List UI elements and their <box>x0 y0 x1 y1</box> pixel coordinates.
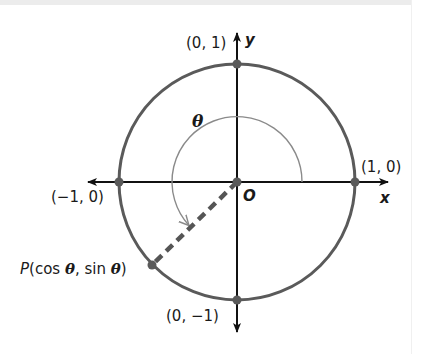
radius-op-dashed <box>152 182 237 265</box>
point-origin <box>233 178 242 187</box>
point-bottom <box>233 296 242 305</box>
label-point-p: P(cos θ, sin θ) <box>20 262 127 277</box>
label-x-axis: x <box>380 191 390 206</box>
point-p-open: (cos <box>29 260 65 278</box>
point-p-theta-2: θ <box>111 260 121 278</box>
point-p-theta-1: θ <box>65 260 75 278</box>
label-bottom-point: (0, −1) <box>166 309 219 324</box>
point-p-close: ) <box>121 260 127 278</box>
label-left-point: (−1, 0) <box>51 190 104 205</box>
label-y-axis: y <box>245 33 255 48</box>
point-p-mid: , sin <box>75 260 111 278</box>
point-p-name: P <box>20 260 29 278</box>
label-top-point: (0, 1) <box>186 36 226 51</box>
label-origin: O <box>243 189 256 204</box>
point-right <box>351 178 360 187</box>
point-p <box>148 261 157 270</box>
point-top <box>233 60 242 69</box>
label-theta: θ <box>192 113 203 130</box>
label-right-point: (1, 0) <box>361 160 401 175</box>
point-left <box>115 178 124 187</box>
unit-circle-diagram <box>0 0 430 354</box>
